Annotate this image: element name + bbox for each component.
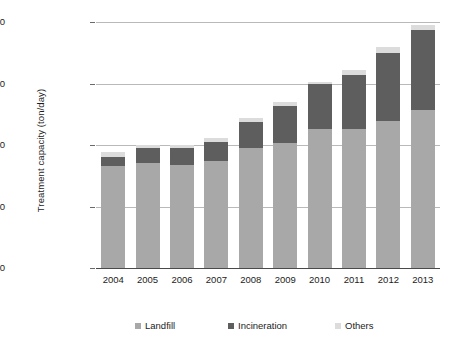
bar-segment-others xyxy=(204,138,228,142)
bar-segment-others xyxy=(170,145,194,148)
bar-segment-others xyxy=(101,152,125,157)
bar-segment-incineration xyxy=(136,148,160,163)
bar-segment-incineration xyxy=(101,157,125,166)
x-tick-label: 2004 xyxy=(96,274,130,285)
y-tick-mark xyxy=(90,207,95,208)
bar-segment-landfill xyxy=(204,161,228,268)
x-tick-label: 2009 xyxy=(268,274,302,285)
bar-group xyxy=(204,22,228,268)
bar-segment-landfill xyxy=(136,163,160,268)
bar-segment-incineration xyxy=(273,106,297,143)
bar-group xyxy=(273,22,297,268)
bar-group xyxy=(376,22,400,268)
bar-segment-landfill xyxy=(308,129,332,268)
x-tick-label: 2010 xyxy=(302,274,336,285)
legend-item[interactable]: Others xyxy=(335,320,374,331)
bar-segment-incineration xyxy=(411,30,435,110)
bar-segment-incineration xyxy=(204,142,228,161)
bar-group xyxy=(342,22,366,268)
y-tick-mark xyxy=(90,22,95,23)
bar-segment-incineration xyxy=(376,53,400,121)
y-tick-mark xyxy=(90,268,95,269)
y-tick-mark xyxy=(90,145,95,146)
bar-segment-incineration xyxy=(342,75,366,129)
bar-segment-incineration xyxy=(170,148,194,165)
y-tick-label: 0 xyxy=(0,262,5,273)
plot-area xyxy=(96,22,440,268)
y-tick-mark xyxy=(90,84,95,85)
bar-segment-others xyxy=(342,70,366,75)
bar-segment-landfill xyxy=(342,129,366,268)
bar-group xyxy=(308,22,332,268)
bar-segment-landfill xyxy=(170,165,194,268)
bar-segment-landfill xyxy=(376,121,400,268)
y-tick-label: 125000 xyxy=(0,201,5,212)
x-tick-label: 2005 xyxy=(130,274,164,285)
bar-segment-others xyxy=(136,145,160,148)
bar-segment-landfill xyxy=(101,166,125,268)
legend-item[interactable]: Incineration xyxy=(228,320,287,331)
bar-segment-incineration xyxy=(308,84,332,129)
legend-label: Others xyxy=(345,320,374,331)
x-tick-label: 2007 xyxy=(199,274,233,285)
legend-label: Incineration xyxy=(238,320,287,331)
x-tick-label: 2006 xyxy=(165,274,199,285)
bar-group xyxy=(136,22,160,268)
bar-segment-others xyxy=(411,25,435,30)
bar-segment-landfill xyxy=(411,110,435,268)
legend-swatch-icon xyxy=(135,323,141,329)
chart-legend: LandfillIncinerationOthers xyxy=(0,320,457,338)
bar-segment-landfill xyxy=(239,148,263,268)
legend-swatch-icon xyxy=(335,323,341,329)
legend-item[interactable]: Landfill xyxy=(135,320,175,331)
bar-segment-others xyxy=(239,118,263,122)
bar-segment-landfill xyxy=(273,143,297,268)
bars-layer xyxy=(96,22,440,268)
stacked-bar-chart: Treatment capacity (ton/day) 01250002500… xyxy=(0,0,457,352)
x-tick-label: 2012 xyxy=(371,274,405,285)
bar-group xyxy=(411,22,435,268)
bar-group xyxy=(239,22,263,268)
y-tick-label: 375000 xyxy=(0,78,5,89)
gridline-0 xyxy=(96,268,440,269)
legend-swatch-icon xyxy=(228,323,234,329)
x-tick-label: 2013 xyxy=(406,274,440,285)
bar-segment-others xyxy=(308,82,332,84)
x-tick-label: 2011 xyxy=(337,274,371,285)
bar-group xyxy=(170,22,194,268)
y-tick-label: 250000 xyxy=(0,139,5,150)
y-tick-label: 500000 xyxy=(0,16,5,27)
bar-segment-incineration xyxy=(239,122,263,148)
legend-label: Landfill xyxy=(145,320,175,331)
bar-segment-others xyxy=(376,47,400,53)
y-axis-title: Treatment capacity (ton/day) xyxy=(35,41,46,261)
bar-group xyxy=(101,22,125,268)
bar-segment-others xyxy=(273,102,297,106)
x-tick-label: 2008 xyxy=(234,274,268,285)
